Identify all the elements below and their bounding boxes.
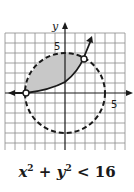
y-axis-label: y <box>51 20 59 33</box>
curve-left-arrow-icon <box>8 90 15 96</box>
open-point-left <box>23 90 29 96</box>
axes <box>5 26 130 150</box>
x-tick-label-5: 5 <box>111 99 117 110</box>
inequality-caption: x2 + y2 < 16 <box>0 163 134 181</box>
open-point-right <box>81 56 87 62</box>
y-tick-label-5: 5 <box>54 41 60 52</box>
caption-rel: < <box>77 163 90 181</box>
caption-exp-y: 2 <box>65 163 71 173</box>
caption-plus: + <box>39 163 52 181</box>
y-axis-arrow-icon <box>62 22 68 29</box>
caption-rhs: 16 <box>95 163 116 181</box>
curve-top-arrow-icon <box>86 36 93 43</box>
x-axis-arrow-icon <box>126 90 133 96</box>
inequality-graph: y 5 5 <box>0 0 134 160</box>
caption-exp-x: 2 <box>27 163 33 173</box>
